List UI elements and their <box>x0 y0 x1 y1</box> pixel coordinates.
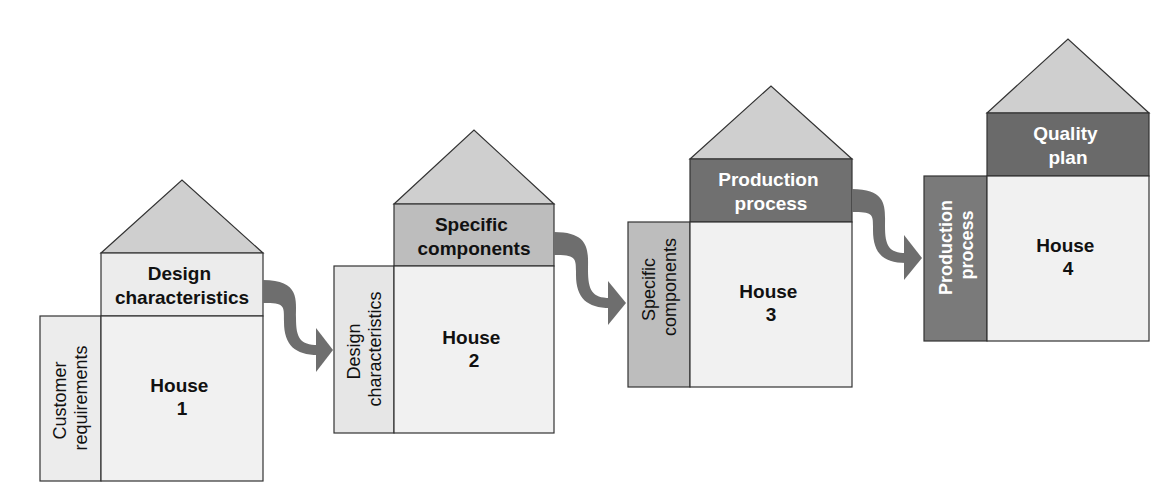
house-2-top-label-line2: components <box>418 238 531 259</box>
house-3-side-label-line1: Specific <box>639 258 659 321</box>
house-4-top-label-line2: plan <box>1048 147 1087 168</box>
house-2-roof <box>394 130 554 204</box>
arrow-2-body <box>554 232 610 308</box>
house-3-side-box <box>628 222 690 387</box>
arrow-3-body <box>852 189 906 263</box>
arrow-3-4 <box>852 189 922 280</box>
arrow-2-head <box>608 281 626 325</box>
svg-text:Customer requirements: Customer requirements <box>50 345 91 450</box>
house-3-side-label-line2: components <box>660 238 680 336</box>
house-3-top-label-line1: Production <box>718 169 818 190</box>
house-1-roof <box>101 180 263 253</box>
house-2-number: 2 <box>469 350 480 371</box>
qfd-diagram: Design characteristics House 1 Customer … <box>0 0 1175 499</box>
arrow-3-head <box>904 235 922 280</box>
arrow-1-head <box>316 328 333 372</box>
house-2-side-box <box>334 266 394 433</box>
house-4-number: 4 <box>1063 258 1074 279</box>
house-2-side-label-line1: Design <box>344 323 364 379</box>
house-2-side-label-line2: characteristics <box>365 291 385 406</box>
house-4-title: House <box>1036 235 1094 256</box>
house-3: Production process House 3 Specific comp… <box>628 86 852 387</box>
house-1-side-label-line1: Customer <box>50 361 70 439</box>
house-3-number: 3 <box>766 304 777 325</box>
house-4: Quality plan House 4 Production process <box>924 39 1149 341</box>
house-3-roof <box>690 86 852 159</box>
house-2-title: House <box>442 327 500 348</box>
house-1: Design characteristics House 1 Customer … <box>40 180 263 481</box>
house-4-roof <box>987 39 1149 113</box>
house-1-title: House <box>150 375 208 396</box>
house-4-side-label-line1: Production <box>936 200 956 295</box>
house-4-side-label-line2: process <box>957 210 977 279</box>
house-1-top-label-line2: characteristics <box>115 287 249 308</box>
house-1-number: 1 <box>177 398 188 419</box>
house-1-top-label-line1: Design <box>148 263 211 284</box>
house-2: Specific components House 2 Design chara… <box>334 130 554 433</box>
arrow-1-2 <box>263 280 333 372</box>
arrow-2-3 <box>554 232 626 325</box>
house-3-top-label-line2: process <box>735 193 808 214</box>
arrow-1-body <box>263 280 318 355</box>
house-3-title: House <box>739 281 797 302</box>
house-2-top-label-line1: Specific <box>435 214 508 235</box>
house-1-side-label-line2: requirements <box>71 345 91 450</box>
house-4-top-label-line1: Quality <box>1033 123 1098 144</box>
